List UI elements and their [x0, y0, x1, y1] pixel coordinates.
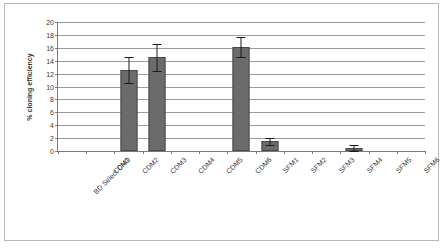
x-tick-mark: [199, 151, 200, 154]
error-bar: [128, 57, 129, 83]
error-cap-lower: [350, 151, 359, 152]
x-tick-mark: [114, 151, 115, 154]
bar-slot: [256, 22, 284, 151]
bar-slot: [397, 22, 425, 151]
y-tick-label: 20: [46, 19, 54, 26]
x-tick-mark: [256, 151, 257, 154]
bar-slot: [284, 22, 312, 151]
error-cap-upper: [265, 138, 274, 139]
bar-slot: [227, 22, 255, 151]
error-cap-lower: [265, 145, 274, 146]
y-tick-label: 2: [50, 135, 54, 142]
figure: % cloning efficiency 02468101214161820 B…: [0, 0, 445, 248]
bar-slot: [58, 22, 86, 151]
error-cap-upper: [237, 37, 246, 38]
error-cap-upper: [152, 44, 161, 45]
error-cap-lower: [124, 83, 133, 84]
bar-slot: [171, 22, 199, 151]
error-cap-upper: [124, 57, 133, 58]
bar-slot: [199, 22, 227, 151]
x-tick-mark: [340, 151, 341, 154]
error-cap-lower: [237, 57, 246, 58]
x-tick-mark: [284, 151, 285, 154]
x-tick-mark: [312, 151, 313, 154]
y-axis-title: % cloning efficiency: [24, 22, 36, 152]
y-tick-label: 8: [50, 96, 54, 103]
bar-slot: [86, 22, 114, 151]
x-tick-mark: [86, 151, 87, 154]
bar-slot: [143, 22, 171, 151]
error-bar: [156, 44, 157, 70]
bar-slot: [114, 22, 142, 151]
x-tick-mark: [397, 151, 398, 154]
y-tick-label: 10: [46, 83, 54, 90]
y-tick-label: 18: [46, 31, 54, 38]
x-tick-mark: [58, 151, 59, 154]
error-bar: [269, 138, 270, 145]
bar-slot: [369, 22, 397, 151]
error-cap-lower: [152, 71, 161, 72]
y-tick-label: 0: [50, 148, 54, 155]
x-tick-mark: [425, 151, 426, 154]
y-tick-label: 16: [46, 44, 54, 51]
y-tick-label: 4: [50, 122, 54, 129]
x-tick-mark: [171, 151, 172, 154]
x-tick-mark: [369, 151, 370, 154]
bar-slot: [340, 22, 368, 151]
y-tick-label: 14: [46, 57, 54, 64]
bar[interactable]: [233, 47, 250, 151]
error-bar: [241, 37, 242, 58]
x-tick-mark: [227, 151, 228, 154]
bar-slot: [312, 22, 340, 151]
y-tick-label: 6: [50, 109, 54, 116]
y-tick-label: 12: [46, 70, 54, 77]
plot-area: 02468101214161820 BD Select CHOCDM1CDM2C…: [57, 22, 425, 152]
error-cap-upper: [350, 145, 359, 146]
x-tick-mark: [143, 151, 144, 154]
